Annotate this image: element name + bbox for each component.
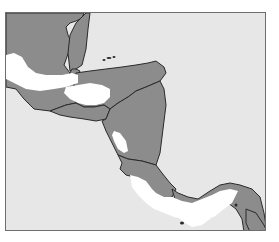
bay-island-3	[113, 56, 116, 58]
bay-island-1	[103, 59, 106, 61]
map-frame	[5, 12, 266, 231]
central-america-map	[6, 13, 266, 231]
bay-island-2	[107, 57, 112, 59]
pacific-island-2	[235, 204, 238, 207]
pacific-island-1	[180, 222, 184, 225]
